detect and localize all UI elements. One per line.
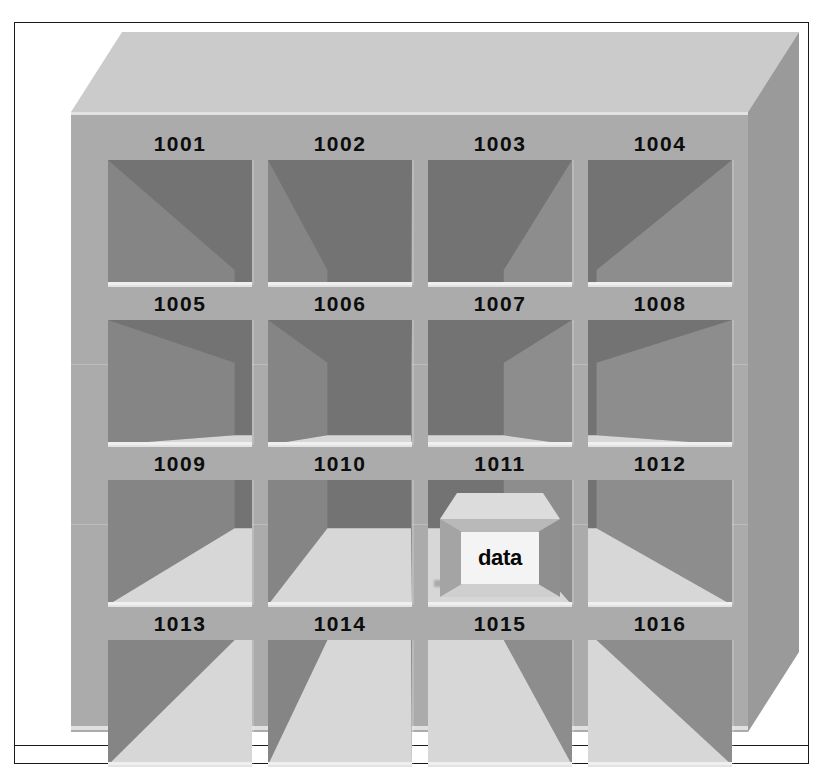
bin-front-lip — [268, 282, 412, 285]
bin-right-wall — [428, 320, 572, 445]
bin-label: 1002 — [268, 132, 412, 156]
storage-bin[interactable]: 1004 — [588, 160, 732, 285]
bin-front-lip — [428, 442, 572, 445]
storage-cabinet: 1001100210031004100510061007100810091010… — [24, 32, 799, 732]
bin-alcove — [108, 640, 252, 765]
storage-bin[interactable]: 1013 — [108, 640, 252, 765]
bin-front-lip — [588, 442, 732, 445]
bin-front-lip — [108, 762, 252, 765]
storage-bin[interactable]: 1009 — [108, 480, 252, 605]
bin-label: 1009 — [108, 452, 252, 476]
bin-alcove — [108, 160, 252, 285]
bin-label: 1016 — [588, 612, 732, 636]
bin-front-lip — [588, 282, 732, 285]
stored-box-left-bevel — [440, 519, 462, 597]
bin-alcove — [108, 320, 252, 445]
bin-label: 1013 — [108, 612, 252, 636]
bin-front-lip — [108, 442, 252, 445]
bin-label: 1015 — [428, 612, 572, 636]
bin-left-wall — [108, 320, 252, 445]
storage-bin[interactable]: 1014 — [268, 640, 412, 765]
storage-bin[interactable]: 1003 — [428, 160, 572, 285]
bin-alcove: data — [428, 480, 572, 605]
storage-bin[interactable]: 1001 — [108, 160, 252, 285]
bin-label: 1004 — [588, 132, 732, 156]
storage-bin[interactable]: 1010 — [268, 480, 412, 605]
bin-label: 1010 — [268, 452, 412, 476]
bin-front-lip — [108, 282, 252, 285]
bin-front-lip — [268, 442, 412, 445]
bin-label: 1012 — [588, 452, 732, 476]
bin-left-wall — [268, 320, 412, 445]
bin-front-lip — [428, 762, 572, 765]
bin-front-lip — [428, 282, 572, 285]
bin-alcove — [268, 480, 412, 605]
storage-bin[interactable]: 1012 — [588, 480, 732, 605]
bin-alcove — [588, 160, 732, 285]
bin-right-wall — [588, 320, 732, 445]
stored-box-label-panel: data — [461, 532, 539, 584]
bin-label: 1001 — [108, 132, 252, 156]
storage-bin[interactable]: 1006 — [268, 320, 412, 445]
bin-alcove — [428, 320, 572, 445]
bin-label: 1011 — [428, 452, 572, 476]
figure-canvas: 1001100210031004100510061007100810091010… — [0, 0, 825, 778]
stored-box-right-bevel — [538, 519, 560, 597]
bin-front-lip — [108, 602, 252, 605]
storage-bin[interactable]: 1011data — [428, 480, 572, 605]
bin-front-lip — [268, 602, 412, 605]
storage-bin[interactable]: 1008 — [588, 320, 732, 445]
bin-alcove — [108, 480, 252, 605]
storage-bin[interactable]: 1002 — [268, 160, 412, 285]
bin-label: 1003 — [428, 132, 572, 156]
bin-front-lip — [588, 762, 732, 765]
stored-data-box[interactable]: data — [440, 493, 560, 597]
bin-alcove — [428, 640, 572, 765]
storage-bin[interactable]: 1007 — [428, 320, 572, 445]
bin-alcove — [428, 160, 572, 285]
bin-right-wall — [588, 160, 732, 285]
bin-label: 1014 — [268, 612, 412, 636]
storage-bin[interactable]: 1016 — [588, 640, 732, 765]
bin-alcove — [268, 640, 412, 765]
bin-alcove — [588, 480, 732, 605]
storage-bin[interactable]: 1015 — [428, 640, 572, 765]
bin-label: 1005 — [108, 292, 252, 316]
bin-alcove — [268, 160, 412, 285]
bin-front-lip — [588, 602, 732, 605]
bin-alcove — [588, 320, 732, 445]
bin-alcove — [268, 320, 412, 445]
bin-front-lip — [428, 602, 572, 605]
bin-front-lip — [268, 762, 412, 765]
cabinet-top-face — [24, 32, 799, 112]
bin-left-wall — [108, 160, 252, 285]
stored-box-label-text: data — [478, 545, 522, 571]
bin-label: 1007 — [428, 292, 572, 316]
bin-right-wall — [428, 160, 572, 285]
bin-left-wall — [268, 160, 412, 285]
bin-grid: 1001100210031004100510061007100810091010… — [71, 112, 748, 732]
stored-box-top — [440, 493, 560, 519]
bin-alcove — [588, 640, 732, 765]
storage-bin[interactable]: 1005 — [108, 320, 252, 445]
bin-label: 1008 — [588, 292, 732, 316]
bin-label: 1006 — [268, 292, 412, 316]
